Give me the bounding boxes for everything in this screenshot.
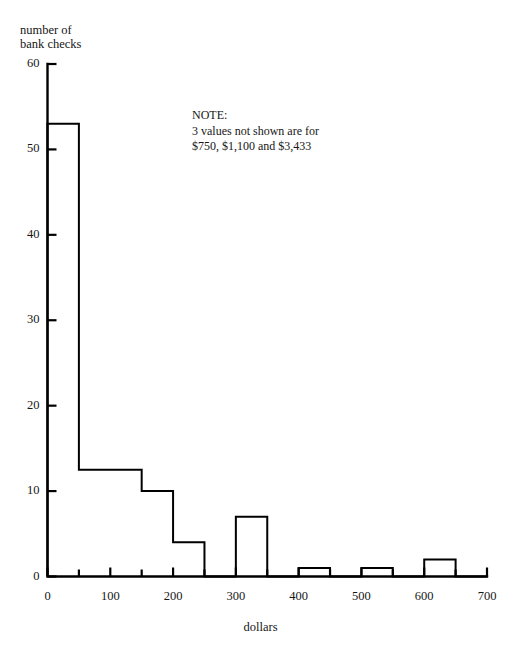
x-tick-label: 100 xyxy=(90,589,130,604)
y-tick-label: 20 xyxy=(10,398,40,413)
y-tick-label: 40 xyxy=(10,227,40,242)
x-axis-title: dollars xyxy=(0,620,521,634)
x-tick-label: 300 xyxy=(216,589,256,604)
plot-area xyxy=(0,0,521,653)
tick-marks xyxy=(48,64,488,577)
axes xyxy=(48,64,488,577)
y-tick-label: 60 xyxy=(10,56,40,71)
x-tick-label: 500 xyxy=(341,589,381,604)
x-tick-label: 600 xyxy=(404,589,444,604)
x-tick-label: 0 xyxy=(28,589,68,604)
y-tick-label: 30 xyxy=(10,312,40,327)
y-tick-label: 50 xyxy=(10,141,40,156)
y-tick-label: 0 xyxy=(10,569,40,584)
histogram-outline xyxy=(48,124,488,577)
histogram-figure: number ofbank checks NOTE:3 values not s… xyxy=(0,0,521,653)
x-tick-label: 200 xyxy=(153,589,193,604)
x-tick-label: 700 xyxy=(467,589,507,604)
y-tick-label: 10 xyxy=(10,483,40,498)
x-tick-label: 400 xyxy=(279,589,319,604)
axis-spines xyxy=(48,64,488,577)
